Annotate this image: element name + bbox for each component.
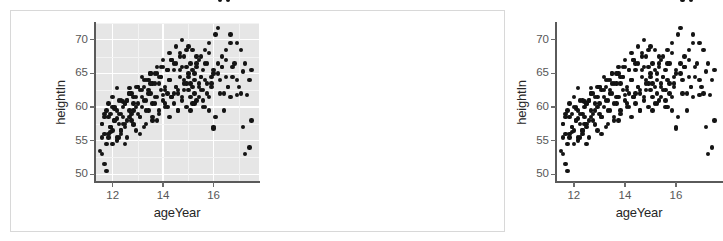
data-point [565,169,569,173]
data-point [597,85,601,89]
data-point [148,81,152,85]
data-point [676,32,680,36]
data-point [682,54,686,58]
data-point [127,115,131,119]
data-point [687,75,691,79]
y-tick-mark [90,106,95,107]
y-tick-mark [551,73,556,74]
data-point [100,135,104,139]
x-tick-mark [573,182,574,187]
data-point [667,61,671,65]
data-point [153,81,157,85]
data-point [213,32,217,36]
data-point [697,41,701,45]
data-point [642,98,646,102]
data-point [155,118,159,122]
y-tick-label: 60 [55,100,88,112]
data-point [125,135,129,139]
data-point [239,91,243,95]
y-tick-mark [551,39,556,40]
data-point [194,65,198,69]
data-point [614,101,618,105]
data-point [670,108,674,112]
data-point [106,132,110,136]
x-axis-label-right: ageYear [556,205,722,220]
data-point [587,135,591,139]
data-point [176,108,180,112]
data-point [701,48,705,52]
data-point [157,81,161,85]
data-point [247,78,251,82]
data-point [230,65,234,69]
data-point [650,108,654,112]
data-point [648,75,652,79]
data-point [112,118,116,122]
data-point [115,108,119,112]
data-point [663,98,667,102]
y-tick-mark [551,174,556,175]
data-point [249,68,253,72]
data-point [625,101,629,105]
data-point [115,135,119,139]
data-point [616,118,620,122]
data-point [680,78,684,82]
y-tick-mark [90,140,95,141]
y-axis-line-left [94,22,96,182]
y-tick-mark [90,39,95,40]
data-point [602,95,606,99]
data-point [680,91,684,95]
data-point [580,128,584,132]
data-point [174,61,178,65]
data-point [201,98,205,102]
data-point [228,41,232,45]
data-point [155,65,159,69]
data-point [131,95,135,99]
gridline-y-minor [95,157,259,158]
data-point [104,169,108,173]
data-point [618,75,622,79]
x-tick-mark [624,182,625,187]
data-point [167,115,171,119]
data-point [174,44,178,48]
data-point [657,65,661,69]
x-tick-label: 12 [93,189,133,201]
data-point [237,85,241,89]
y-tick-label: 65 [55,66,88,78]
data-point [222,108,226,112]
data-point [572,128,576,132]
data-point [169,58,173,62]
data-point [230,75,234,79]
data-point [169,95,173,99]
data-point [146,108,150,112]
data-point [606,98,610,102]
data-point [144,98,148,102]
data-point [653,85,657,89]
data-point [650,61,654,65]
data-point [197,81,201,85]
data-point [663,68,667,72]
data-point [699,85,703,89]
data-point [218,91,222,95]
data-point [599,132,603,136]
data-point [190,48,194,52]
data-point [228,95,232,99]
data-point [243,61,247,65]
data-point [685,108,689,112]
data-point [209,75,213,79]
data-point [186,88,190,92]
data-point [180,98,184,102]
data-point [629,78,633,82]
data-point [618,81,622,85]
data-point [106,115,110,119]
data-point [697,93,701,97]
scatter-plot-left: heightIn ageYear 5055606570121416 [14,0,257,241]
data-point [584,122,588,126]
data-point [680,0,684,2]
x-axis-line-left [94,181,260,183]
data-point [220,54,224,58]
data-point [697,78,701,82]
data-point [633,68,637,72]
data-point [678,71,682,75]
gridline-x-minor [239,23,240,181]
